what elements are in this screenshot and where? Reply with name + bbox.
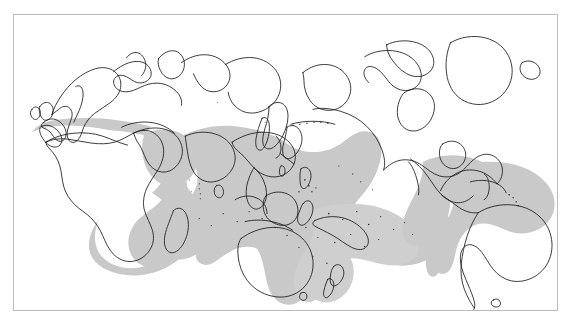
- coast-arctic-islands: [387, 41, 434, 77]
- coast-arctic-russia: [114, 61, 182, 105]
- coast-british-isles: [39, 102, 53, 120]
- coast-greenland: [446, 36, 512, 104]
- map-frame: [13, 14, 558, 311]
- coast-siberia-north: [181, 55, 230, 92]
- coast-alaska: [303, 64, 351, 110]
- coast-ireland: [30, 107, 40, 120]
- world-map-svg: [14, 15, 557, 310]
- coast-canada-arctic: [364, 51, 421, 91]
- coast-hudson-bay: [397, 89, 434, 131]
- figure-root: [0, 0, 571, 324]
- distribution-range-layer: [32, 118, 555, 305]
- coast-chukotka: [225, 58, 280, 114]
- coast-iceland: [520, 61, 540, 79]
- coast-baltic-inlet: [74, 86, 83, 123]
- coast-taymyr: [158, 51, 184, 79]
- coast-falklands: [491, 299, 500, 307]
- coast-novaya-zemlya: [127, 52, 146, 75]
- figure-caption: [13, 313, 558, 323]
